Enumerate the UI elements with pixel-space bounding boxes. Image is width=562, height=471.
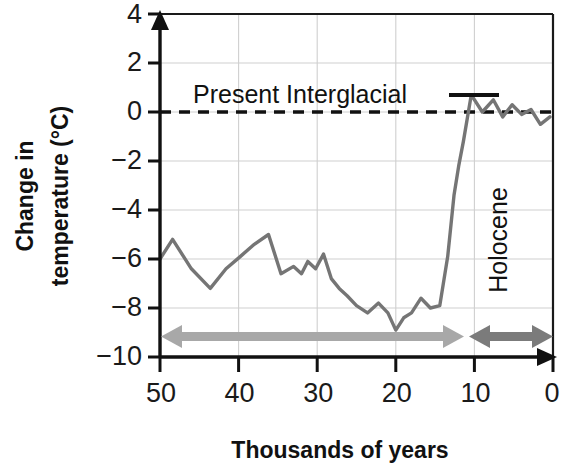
x-axis-title: Thousands of years <box>231 437 448 463</box>
xtick-label-20: 20 <box>382 378 412 408</box>
ytick-label-m4: −4 <box>111 194 142 224</box>
holocene-label: Holocene <box>484 187 512 293</box>
xtick-label-10: 10 <box>460 378 490 408</box>
present-interglacial-annotation: Present Interglacial <box>193 80 499 108</box>
holocene-span-right-head <box>532 325 553 348</box>
xtick-label-50: 50 <box>146 378 176 408</box>
temperature-change-chart: 4 2 0 −2 −4 −6 −8 −10 50 40 30 20 10 <box>0 0 562 471</box>
y-axis: 4 2 0 −2 −4 −6 −8 −10 <box>96 0 169 371</box>
xtick-label-40: 40 <box>225 378 255 408</box>
ytick-label-0: 0 <box>127 96 142 126</box>
ytick-label-m10: −10 <box>96 341 142 371</box>
xtick-label-0: 0 <box>544 378 559 408</box>
glacial-span-right-head <box>443 325 464 348</box>
y-axis-title-line2: temperature (°C) <box>47 106 73 286</box>
span-arrows <box>161 325 553 348</box>
ytick-label-2: 2 <box>127 47 142 77</box>
ytick-label-m2: −2 <box>111 145 142 175</box>
present-interglacial-label: Present Interglacial <box>193 80 407 108</box>
ytick-label-m8: −8 <box>111 292 142 322</box>
y-axis-title: Change in temperature (°C) <box>12 106 73 286</box>
glacial-span-shaft <box>176 332 443 341</box>
glacial-span-arrow <box>161 325 464 348</box>
ytick-label-m6: −6 <box>111 243 142 273</box>
x-axis: 50 40 30 20 10 0 <box>146 348 560 408</box>
xtick-label-30: 30 <box>303 378 333 408</box>
holocene-span-arrow <box>469 325 553 348</box>
holocene-span-shaft <box>487 332 537 341</box>
chart-canvas: 4 2 0 −2 −4 −6 −8 −10 50 40 30 20 10 <box>0 0 562 471</box>
ytick-label-4: 4 <box>127 0 142 29</box>
glacial-span-left-head <box>161 325 182 348</box>
holocene-span-left-head <box>469 325 490 348</box>
y-axis-title-line1: Change in <box>12 140 38 251</box>
